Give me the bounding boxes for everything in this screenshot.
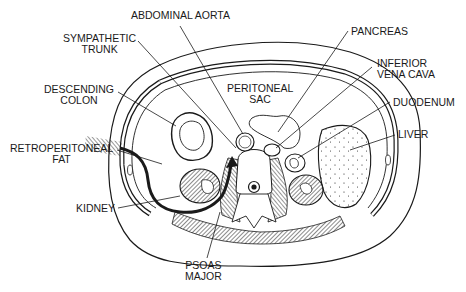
label-sympathetic-trunk: SYMPATHETIC TRUNK	[63, 33, 136, 55]
label-kidney: KIDNEY	[76, 203, 115, 214]
label-descending-colon: DESCENDING COLON	[44, 84, 114, 106]
pancreas	[249, 115, 300, 148]
label-line: PANCREAS	[351, 26, 408, 37]
label-psoas-major: PSOAS MAJOR	[185, 260, 222, 282]
label-line: LIVER	[398, 129, 428, 140]
kidney-left	[180, 169, 220, 203]
label-pancreas: PANCREAS	[351, 26, 408, 37]
label-duodenum: DUODENUM	[393, 97, 455, 108]
label-line: ABDOMINAL AORTA	[131, 10, 230, 21]
label-liver: LIVER	[398, 129, 428, 140]
label-inferior-vena-cava: INFERIOR VENA CAVA	[377, 58, 435, 80]
label-line: TRUNK	[63, 44, 136, 55]
label-abdominal-aorta: ABDOMINAL AORTA	[131, 10, 230, 21]
liver	[318, 125, 370, 207]
label-retroperitoneal-fat: RETROPERITONEAL FAT	[10, 143, 113, 165]
label-line: KIDNEY	[76, 203, 115, 214]
label-line: MAJOR	[185, 271, 222, 282]
label-peritoneal-sac: PERITONEAL SAC	[227, 83, 293, 105]
label-line: COLON	[44, 95, 114, 106]
leader-kidney	[118, 196, 180, 208]
label-line: VENA CAVA	[377, 69, 435, 80]
inferior-vena-cava	[264, 144, 280, 156]
label-line: FAT	[10, 154, 113, 165]
label-line: DUODENUM	[393, 97, 455, 108]
anatomy-diagram: ABDOMINAL AORTA SYMPATHETIC TRUNK DESCEN…	[0, 0, 466, 292]
duodenum	[285, 154, 305, 172]
label-line: SAC	[227, 94, 293, 105]
